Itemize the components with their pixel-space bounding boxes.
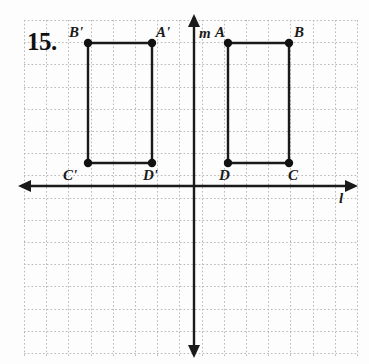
vertex-label-C-prime: C' — [63, 168, 77, 183]
vertex-point — [285, 159, 293, 167]
vertex-label-A-prime: A' — [156, 25, 170, 40]
vertex-point — [224, 159, 232, 167]
vertex-label-D-prime: D' — [143, 168, 158, 183]
problem-number: 15. — [27, 29, 57, 54]
axis-label-vertical: m — [199, 26, 211, 41]
vertex-point — [148, 39, 156, 47]
vertex-point — [148, 159, 156, 167]
shapes-layer — [88, 43, 289, 163]
vertex-label-B: B — [294, 25, 304, 40]
vertex-label-D: D — [219, 168, 230, 183]
vertex-point — [84, 39, 92, 47]
vertex-label-C: C — [288, 168, 298, 183]
vertex-label-B-prime: B' — [69, 25, 83, 40]
vertex-point — [224, 39, 232, 47]
figure-canvas: 15. lmABCDA'B'C'D' — [0, 0, 369, 364]
vertex-points — [84, 39, 293, 167]
grid-lines — [24, 20, 358, 357]
vertex-label-A: A — [215, 25, 225, 40]
vertex-point — [84, 159, 92, 167]
original-rectangle — [228, 43, 289, 163]
axis-label-horizontal: l — [339, 191, 343, 206]
vertex-point — [285, 39, 293, 47]
image-rectangle — [88, 43, 152, 163]
